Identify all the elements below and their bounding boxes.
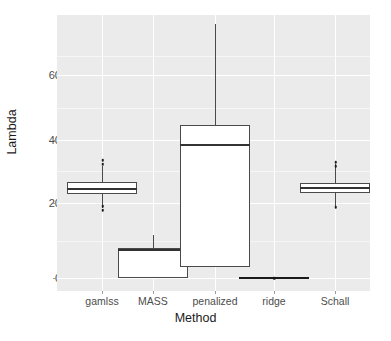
outlier-point bbox=[334, 206, 337, 209]
plot-panel bbox=[57, 15, 370, 291]
x-axis-tick-label-schall: Schall bbox=[321, 296, 350, 307]
gridline-category-gamlss bbox=[102, 15, 103, 291]
outlier-point bbox=[101, 159, 104, 162]
y-axis-tick-mark bbox=[53, 140, 56, 141]
x-axis-tick-label-ridge: ridge bbox=[262, 296, 285, 307]
boxplot-figure: 60 40 20 0 Lambda bbox=[0, 0, 391, 341]
gridline-major-60 bbox=[57, 75, 370, 76]
outlier-point bbox=[273, 277, 276, 280]
y-axis-tick-mark bbox=[53, 278, 56, 279]
x-axis-tick-mark bbox=[153, 291, 154, 294]
outlier-point bbox=[101, 205, 104, 208]
y-axis-tick-mark bbox=[53, 75, 56, 76]
x-axis-title: Method bbox=[0, 311, 391, 325]
median-gamlss bbox=[67, 188, 137, 190]
outlier-point bbox=[334, 161, 337, 164]
box-mass bbox=[118, 248, 188, 278]
x-axis-tick-label-gamlss: gamlss bbox=[85, 296, 118, 307]
x-axis-tick-label-mass: MASS bbox=[138, 296, 168, 307]
median-penalized bbox=[180, 144, 250, 146]
gridline-minor-50 bbox=[57, 108, 370, 109]
x-axis-tick-mark bbox=[274, 291, 275, 294]
gridline-category-ridge bbox=[274, 15, 275, 291]
outlier-point bbox=[334, 165, 337, 168]
gridline-major-0 bbox=[57, 278, 370, 279]
whisker-upper-penalized bbox=[215, 24, 216, 125]
median-mass bbox=[118, 249, 188, 251]
box-penalized bbox=[180, 125, 250, 267]
x-axis-tick-mark bbox=[215, 291, 216, 294]
gridline-category-schall bbox=[335, 15, 336, 291]
x-axis-tick-mark bbox=[335, 291, 336, 294]
gridline-minor-70 bbox=[57, 56, 370, 57]
median-schall bbox=[300, 187, 370, 189]
outlier-point bbox=[101, 209, 104, 212]
outlier-point bbox=[101, 163, 104, 166]
y-axis-tick-mark bbox=[53, 203, 56, 204]
x-axis-tick-mark bbox=[102, 291, 103, 294]
x-axis-tick-label-penalized: penalized bbox=[193, 296, 238, 307]
whisker-upper-mass bbox=[153, 235, 154, 248]
y-axis-title: Lambda bbox=[5, 72, 19, 192]
